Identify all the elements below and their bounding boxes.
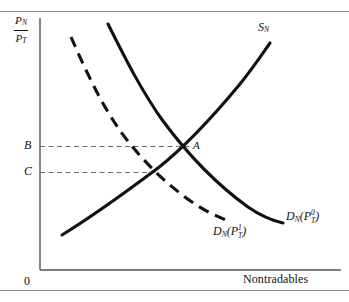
equilibrium-point-label-a: A: [193, 139, 200, 151]
y-tick-label-b: B: [24, 138, 31, 153]
demand-curve-label-dn0: DN(P0T): [286, 209, 319, 224]
y-axis-label-denominator: PT: [14, 31, 28, 47]
demand-curve-label-dn1: DN(P1T): [213, 224, 246, 239]
supply-curve-sn: [62, 43, 270, 235]
y-tick-label-c: C: [24, 164, 32, 179]
y-axis-label: PN PT: [14, 14, 28, 48]
figure-page: PN PT B C 0 SN A DN(P0T) DN(P1T) Nontrad…: [0, 0, 349, 302]
supply-curve-label: SN: [258, 20, 269, 35]
x-axis-label: Nontradables: [243, 272, 308, 287]
y-axis-label-numerator: PN: [14, 14, 28, 31]
chart-plot-area: [0, 0, 349, 302]
origin-label: 0: [24, 274, 30, 289]
demand-curve-dn0: [108, 24, 283, 223]
